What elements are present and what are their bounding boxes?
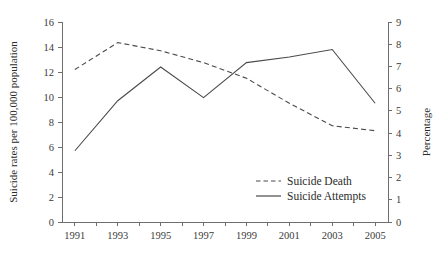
line-chart: 0246810121416Suicide rates per 100,000 p…: [0, 0, 446, 266]
y-axis-left-tick-label: 2: [49, 192, 54, 203]
y-axis-right-tick-label: 4: [396, 128, 402, 139]
x-axis-tick-label: 2005: [365, 230, 386, 241]
series-line-suicide-attempts: [75, 50, 375, 151]
y-axis-left-tick-label: 6: [49, 142, 54, 153]
legend-label-suicide-attempts: Suicide Attempts: [287, 190, 366, 203]
series-line-suicide-death: [75, 43, 375, 131]
y-axis-right-tick-label: 7: [396, 61, 401, 72]
y-axis-right-tick-label: 1: [396, 194, 401, 205]
x-axis-tick-label: 1995: [150, 230, 171, 241]
x-axis-tick-label: 2003: [322, 230, 343, 241]
y-axis-right-tick-label: 0: [396, 217, 401, 228]
legend-label-suicide-death: Suicide Death: [287, 175, 352, 187]
chart-container: 0246810121416Suicide rates per 100,000 p…: [0, 0, 446, 266]
y-axis-right-tick-label: 2: [396, 172, 401, 183]
x-axis-tick-label: 1991: [64, 230, 85, 241]
y-axis-left-tick-label: 14: [44, 42, 55, 53]
y-axis-right-tick-label: 8: [396, 39, 401, 50]
x-axis-tick-label: 2001: [279, 230, 300, 241]
y-axis-right-tick-label: 5: [396, 105, 401, 116]
x-axis-tick-label: 1993: [107, 230, 128, 241]
y-axis-left-tick-label: 10: [44, 92, 55, 103]
y-axis-left-title: Suicide rates per 100,000 population: [7, 41, 19, 203]
y-axis-left-tick-label: 4: [49, 167, 55, 178]
y-axis-right-tick-label: 3: [396, 150, 401, 161]
y-axis-left-tick-label: 0: [49, 217, 54, 228]
y-axis-left-tick-label: 8: [49, 117, 54, 128]
x-axis-tick-label: 1997: [193, 230, 214, 241]
y-axis-left-tick-label: 16: [44, 17, 55, 28]
y-axis-left-tick-label: 12: [44, 67, 55, 78]
y-axis-right-tick-label: 9: [396, 17, 401, 28]
y-axis-right-tick-label: 6: [396, 83, 401, 94]
y-axis-right-title: Percentage: [420, 108, 432, 156]
x-axis-tick-label: 1999: [236, 230, 257, 241]
